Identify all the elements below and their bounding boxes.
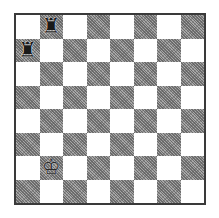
square-h2[interactable] bbox=[181, 156, 205, 180]
white-king-icon[interactable]: ♔ bbox=[42, 157, 61, 178]
square-b1[interactable] bbox=[40, 180, 64, 204]
square-e1[interactable] bbox=[110, 180, 134, 204]
square-f3[interactable] bbox=[134, 133, 158, 157]
square-f8[interactable] bbox=[134, 15, 158, 39]
square-e6[interactable] bbox=[110, 62, 134, 86]
square-d7[interactable] bbox=[87, 39, 111, 63]
square-h6[interactable] bbox=[181, 62, 205, 86]
square-a4[interactable] bbox=[16, 109, 40, 133]
square-f6[interactable] bbox=[134, 62, 158, 86]
square-b3[interactable] bbox=[40, 133, 64, 157]
square-g7[interactable] bbox=[157, 39, 181, 63]
square-h7[interactable] bbox=[181, 39, 205, 63]
square-a7[interactable]: ♜ bbox=[16, 39, 40, 63]
square-g3[interactable] bbox=[157, 133, 181, 157]
square-e8[interactable] bbox=[110, 15, 134, 39]
square-d1[interactable] bbox=[87, 180, 111, 204]
square-b8[interactable]: ♜ bbox=[40, 15, 64, 39]
square-f4[interactable] bbox=[134, 109, 158, 133]
square-f2[interactable] bbox=[134, 156, 158, 180]
square-c7[interactable] bbox=[63, 39, 87, 63]
square-d2[interactable] bbox=[87, 156, 111, 180]
square-h3[interactable] bbox=[181, 133, 205, 157]
square-a2[interactable] bbox=[16, 156, 40, 180]
square-a5[interactable] bbox=[16, 86, 40, 110]
square-c2[interactable] bbox=[63, 156, 87, 180]
chess-board[interactable]: ♜♜♔ bbox=[16, 15, 204, 203]
black-rook-icon[interactable]: ♜ bbox=[18, 40, 37, 61]
square-a1[interactable] bbox=[16, 180, 40, 204]
square-e4[interactable] bbox=[110, 109, 134, 133]
square-a6[interactable] bbox=[16, 62, 40, 86]
square-d4[interactable] bbox=[87, 109, 111, 133]
square-b6[interactable] bbox=[40, 62, 64, 86]
square-f5[interactable] bbox=[134, 86, 158, 110]
square-d6[interactable] bbox=[87, 62, 111, 86]
square-c4[interactable] bbox=[63, 109, 87, 133]
square-e3[interactable] bbox=[110, 133, 134, 157]
square-h5[interactable] bbox=[181, 86, 205, 110]
square-e5[interactable] bbox=[110, 86, 134, 110]
square-c8[interactable] bbox=[63, 15, 87, 39]
black-rook-icon[interactable]: ♜ bbox=[42, 16, 61, 37]
square-f7[interactable] bbox=[134, 39, 158, 63]
square-g8[interactable] bbox=[157, 15, 181, 39]
square-h1[interactable] bbox=[181, 180, 205, 204]
square-b4[interactable] bbox=[40, 109, 64, 133]
square-e7[interactable] bbox=[110, 39, 134, 63]
square-a3[interactable] bbox=[16, 133, 40, 157]
square-a8[interactable] bbox=[16, 15, 40, 39]
square-g1[interactable] bbox=[157, 180, 181, 204]
square-c1[interactable] bbox=[63, 180, 87, 204]
square-g4[interactable] bbox=[157, 109, 181, 133]
square-c5[interactable] bbox=[63, 86, 87, 110]
square-d5[interactable] bbox=[87, 86, 111, 110]
square-b2[interactable]: ♔ bbox=[40, 156, 64, 180]
square-g5[interactable] bbox=[157, 86, 181, 110]
square-g6[interactable] bbox=[157, 62, 181, 86]
square-d8[interactable] bbox=[87, 15, 111, 39]
square-c6[interactable] bbox=[63, 62, 87, 86]
square-h4[interactable] bbox=[181, 109, 205, 133]
square-f1[interactable] bbox=[134, 180, 158, 204]
square-g2[interactable] bbox=[157, 156, 181, 180]
square-b5[interactable] bbox=[40, 86, 64, 110]
square-d3[interactable] bbox=[87, 133, 111, 157]
square-b7[interactable] bbox=[40, 39, 64, 63]
square-c3[interactable] bbox=[63, 133, 87, 157]
square-h8[interactable] bbox=[181, 15, 205, 39]
square-e2[interactable] bbox=[110, 156, 134, 180]
chess-board-frame: ♜♜♔ bbox=[14, 13, 206, 205]
